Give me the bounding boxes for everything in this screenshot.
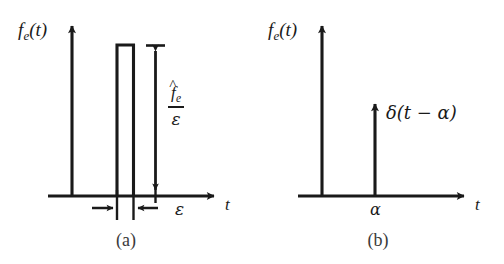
pulse-height-label: ^fe ε <box>168 84 184 128</box>
fraction-numerator: ^fe <box>168 84 184 105</box>
panel-a-caption: (a) <box>0 231 252 249</box>
fraction-bar <box>168 106 184 108</box>
x-axis-label-a: t <box>225 196 230 213</box>
hat-accent: ^ <box>169 77 176 93</box>
panel-b-caption: (b) <box>252 231 504 249</box>
impulse-function-label: δ(t − α) <box>386 104 457 122</box>
y-axis-label-b: fe(t) <box>268 20 297 43</box>
x-axis-label-b: t <box>475 196 480 213</box>
figure-container: fe(t) t ^fe ε ε (a) <box>0 0 504 264</box>
rectangular-pulse <box>117 45 134 196</box>
panel-b: fe(t) t δ(t − α) α (b) <box>252 0 504 264</box>
y-axis-label-a: fe(t) <box>18 20 47 43</box>
impulse-position-label: α <box>370 202 381 218</box>
pulse-width-label: ε <box>175 201 184 218</box>
panel-a: fe(t) t ^fe ε ε (a) <box>0 0 252 264</box>
fraction-denominator: ε <box>168 110 184 128</box>
